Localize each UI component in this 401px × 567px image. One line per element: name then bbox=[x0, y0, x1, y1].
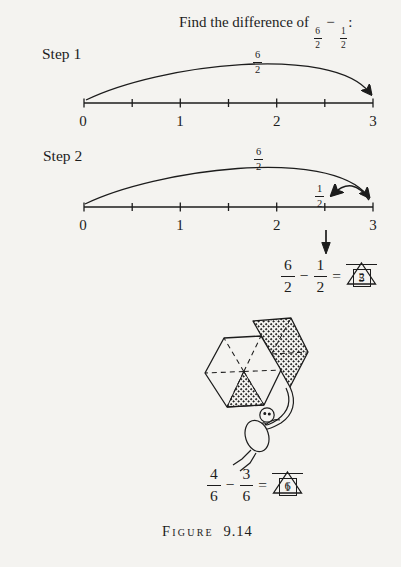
equals-sign: = bbox=[258, 476, 267, 494]
answer-fraction: 1 6 bbox=[272, 470, 303, 496]
answer-fraction: 5 2 bbox=[346, 261, 377, 287]
problem-title: Find the difference of 6 2 − 1 2 : bbox=[179, 14, 352, 50]
title-colon: : bbox=[348, 14, 352, 30]
step2-jump-back-fraction-label: 1 2 bbox=[315, 184, 324, 209]
caption-number: 9.14 bbox=[223, 523, 252, 539]
tick-label-0: 0 bbox=[79, 217, 87, 233]
jump-arc-six-halves bbox=[85, 167, 368, 204]
number-line-step2: 0 1 2 3 bbox=[60, 150, 395, 240]
figure-caption: Figure 9.14 bbox=[162, 523, 253, 540]
step2-arc-fraction-label: 6 2 bbox=[254, 147, 263, 172]
hexagon-kite-illustration bbox=[195, 308, 330, 478]
tick-label-1: 1 bbox=[176, 113, 184, 129]
jump-back-arc-one-half bbox=[333, 186, 369, 200]
tick-label-3: 3 bbox=[369, 113, 377, 129]
figure-head bbox=[260, 408, 274, 422]
minuend-fraction: 4 6 bbox=[207, 466, 221, 504]
svg-text:5: 5 bbox=[359, 272, 365, 284]
subtrahend-fraction: 3 6 bbox=[240, 466, 254, 504]
number-line-step1: 0 1 2 3 bbox=[60, 48, 395, 132]
triangle-answer-numerator: 1 bbox=[272, 470, 303, 495]
tick-label-2: 2 bbox=[273, 113, 281, 129]
equals-sign: = bbox=[332, 267, 341, 285]
title-minus: − bbox=[326, 14, 334, 30]
minuend-fraction: 6 2 bbox=[281, 257, 295, 295]
title-prefix: Find the difference of bbox=[179, 14, 309, 30]
figure-eye bbox=[264, 413, 266, 415]
title-fraction-1: 6 2 bbox=[314, 27, 322, 50]
jump-arc-six-halves bbox=[86, 64, 370, 100]
caption-label: Figure bbox=[162, 523, 214, 539]
figure-leg bbox=[233, 450, 251, 465]
minus-sign: − bbox=[226, 476, 235, 494]
tick-label-3: 3 bbox=[369, 217, 377, 233]
svg-text:1: 1 bbox=[285, 481, 291, 493]
figure-eye bbox=[268, 413, 270, 415]
tick-label-2: 2 bbox=[273, 217, 281, 233]
stick-figure bbox=[233, 408, 280, 471]
textbook-figure-page: Find the difference of 6 2 − 1 2 : Step … bbox=[0, 0, 401, 567]
subtrahend-fraction: 1 2 bbox=[314, 257, 328, 295]
equation-sixths: 4 6 − 3 6 = 1 6 bbox=[207, 466, 303, 504]
minus-sign: − bbox=[300, 267, 309, 285]
down-arrow-icon bbox=[319, 229, 333, 255]
tick-label-1: 1 bbox=[176, 217, 184, 233]
equation-halves: 6 2 − 1 2 = 5 2 bbox=[281, 257, 377, 295]
tick-label-0: 0 bbox=[79, 113, 87, 129]
triangle-answer-numerator: 5 bbox=[346, 261, 377, 286]
title-fraction-2: 1 2 bbox=[340, 27, 348, 50]
step1-arc-fraction-label: 6 2 bbox=[253, 50, 262, 75]
